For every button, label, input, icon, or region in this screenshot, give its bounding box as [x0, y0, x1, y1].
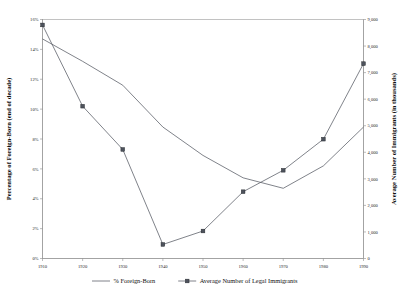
immigration-line-chart: 0%2%4%6%8%10%12%14%16% 01,0002,0003,0004…: [0, 0, 405, 295]
x-tick-label: 1940: [158, 264, 168, 269]
left-tick-label: 2%: [32, 226, 38, 231]
legend-label: % Foreign-Born: [114, 277, 157, 284]
right-axis-title: Average Number of Immigrants (in thousan…: [390, 73, 398, 205]
series-marker: [241, 190, 245, 194]
series-marker: [201, 229, 205, 233]
series-marker: [121, 148, 125, 152]
x-tick-label: 1920: [78, 264, 88, 269]
x-tick-label: 1950: [198, 264, 208, 269]
legend-swatch-marker: [185, 279, 189, 283]
left-tick-label: 0%: [32, 256, 38, 261]
series-marker: [362, 62, 366, 66]
chart-background: [0, 0, 405, 295]
left-axis-title: Percentage of Foreign-Born (end of decad…: [5, 78, 13, 201]
left-tick-label: 16%: [30, 17, 39, 22]
series-marker: [161, 243, 165, 247]
x-tick-label: 1970: [279, 264, 289, 269]
x-tick-label: 1930: [118, 264, 128, 269]
x-tick-label: 1990: [359, 264, 369, 269]
series-marker: [322, 137, 326, 141]
left-tick-label: 12%: [30, 77, 39, 82]
series-marker: [81, 104, 85, 108]
legend-label: Average Number of Legal Immigrants: [200, 277, 298, 284]
x-tick-label: 1980: [319, 264, 329, 269]
left-tick-label: 14%: [30, 47, 39, 52]
series-marker: [41, 23, 45, 27]
x-tick-label: 1960: [239, 264, 249, 269]
left-tick-label: 10%: [30, 107, 39, 112]
series-marker: [281, 168, 285, 172]
left-tick-label: 8%: [32, 137, 38, 142]
left-tick-label: 6%: [32, 167, 38, 172]
chart-container: 0%2%4%6%8%10%12%14%16% 01,0002,0003,0004…: [0, 0, 405, 295]
x-tick-label: 1910: [38, 264, 48, 269]
left-tick-label: 4%: [32, 196, 38, 201]
